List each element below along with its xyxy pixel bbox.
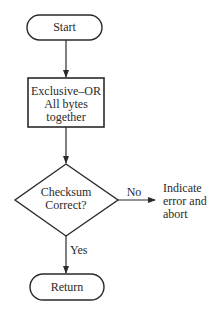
xor-label-line3: together (28, 111, 104, 124)
check-label-line2: Correct? (26, 199, 106, 212)
return-label: Return (30, 281, 104, 294)
yes-edge-label: Yes (70, 244, 94, 257)
flowchart-canvas (0, 0, 219, 316)
error-label-line3: abort (163, 208, 219, 221)
no-edge-label: No (124, 186, 144, 199)
start-label: Start (27, 21, 102, 34)
